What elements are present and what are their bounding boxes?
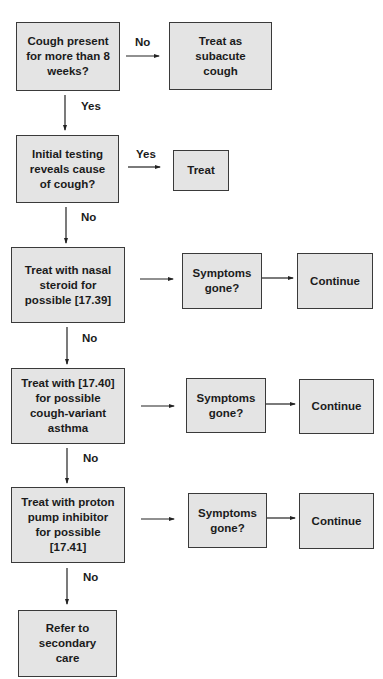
- node-continue-1: Continue: [297, 253, 373, 309]
- node-symptoms-gone-3: Symptoms gone?: [188, 493, 267, 548]
- node-nasal-steroid: Treat with nasal steroid for possible [1…: [11, 247, 125, 323]
- node-initial-testing: Initial testing reveals cause of cough?: [16, 135, 119, 203]
- edge-label-nasal-no: No: [82, 332, 97, 344]
- edge-label-cough-yes: Yes: [81, 100, 101, 112]
- node-proton-pump-inhibitor: Treat with proton pump inhibitor for pos…: [11, 487, 125, 563]
- node-symptoms-gone-2: Symptoms gone?: [186, 378, 266, 433]
- edge-label-asthma-no: No: [83, 452, 98, 464]
- node-symptoms-gone-1: Symptoms gone?: [182, 253, 262, 309]
- node-subacute-cough: Treat as subacute cough: [169, 22, 272, 90]
- edge-label-cough-no: No: [135, 36, 150, 48]
- edge-label-testing-no: No: [81, 211, 96, 223]
- node-cough-variant-asthma: Treat with [17.40] for possible cough-va…: [11, 368, 125, 444]
- node-continue-2: Continue: [299, 379, 374, 434]
- edge-label-ppi-no: No: [83, 571, 98, 583]
- connector-arrows: [0, 0, 383, 679]
- node-cough-duration: Cough present for more than 8 weeks?: [16, 22, 120, 91]
- edge-label-testing-yes: Yes: [136, 148, 156, 160]
- node-treat: Treat: [173, 150, 229, 191]
- node-refer-secondary-care: Refer to secondary care: [18, 610, 117, 677]
- node-continue-3: Continue: [299, 493, 374, 549]
